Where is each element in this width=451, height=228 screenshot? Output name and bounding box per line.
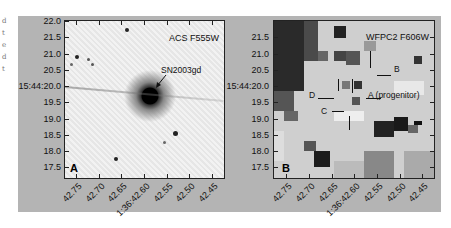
- arrow-icon: [65, 21, 224, 178]
- panel-b-image: WFPC2 F606W A (progenitor) B C D B: [273, 20, 435, 179]
- label-d: D: [309, 90, 315, 100]
- sn-label: SN2003gd: [161, 65, 201, 75]
- y-tick-label: 19.0: [1, 114, 61, 124]
- panel-title: WFPC2 F606W: [366, 32, 429, 42]
- y-tick-label: 22.0: [1, 16, 61, 26]
- marker-a-vertical: [352, 79, 353, 93]
- y-tick-label: 20.5: [1, 65, 61, 75]
- marker-c-horizontal: [332, 111, 344, 112]
- y-tick-label: 21.5: [209, 32, 269, 42]
- label-b: B: [394, 64, 400, 74]
- panel-letter: B: [282, 162, 290, 174]
- label-c: C: [321, 106, 327, 116]
- y-tick-label: 19.5: [209, 97, 269, 107]
- y-tick-label: 17.5: [209, 162, 269, 172]
- y-tick-label: 21.0: [1, 49, 61, 59]
- y-tick-label: 19.5: [1, 97, 61, 107]
- y-tick-label: 21.0: [209, 49, 269, 59]
- panel-letter: A: [70, 162, 78, 174]
- y-tick-label: 21.5: [1, 32, 61, 42]
- panel-a-image: ACS F555W SN2003gd A: [64, 20, 225, 179]
- marker-b-horizontal: [377, 75, 391, 76]
- y-tick-label: 18.0: [1, 146, 61, 156]
- y-tick-label: 17.5: [1, 162, 61, 172]
- marker-d-horizontal: [318, 98, 334, 99]
- y-tick-label: 15:44:20.0: [1, 81, 61, 91]
- y-tick-label: 15:44:20.0: [209, 81, 269, 91]
- y-tick-label: 18.0: [209, 146, 269, 156]
- marker-d-vertical: [338, 79, 339, 91]
- label-a-progenitor: A (progenitor): [368, 90, 420, 100]
- y-tick-label: 19.0: [209, 114, 269, 124]
- y-tick-label: 18.5: [209, 130, 269, 140]
- marker-c-vertical: [349, 116, 350, 130]
- y-tick-label: 18.5: [1, 130, 61, 140]
- marker-b-vertical: [370, 51, 371, 68]
- y-tick-label: 20.5: [209, 65, 269, 75]
